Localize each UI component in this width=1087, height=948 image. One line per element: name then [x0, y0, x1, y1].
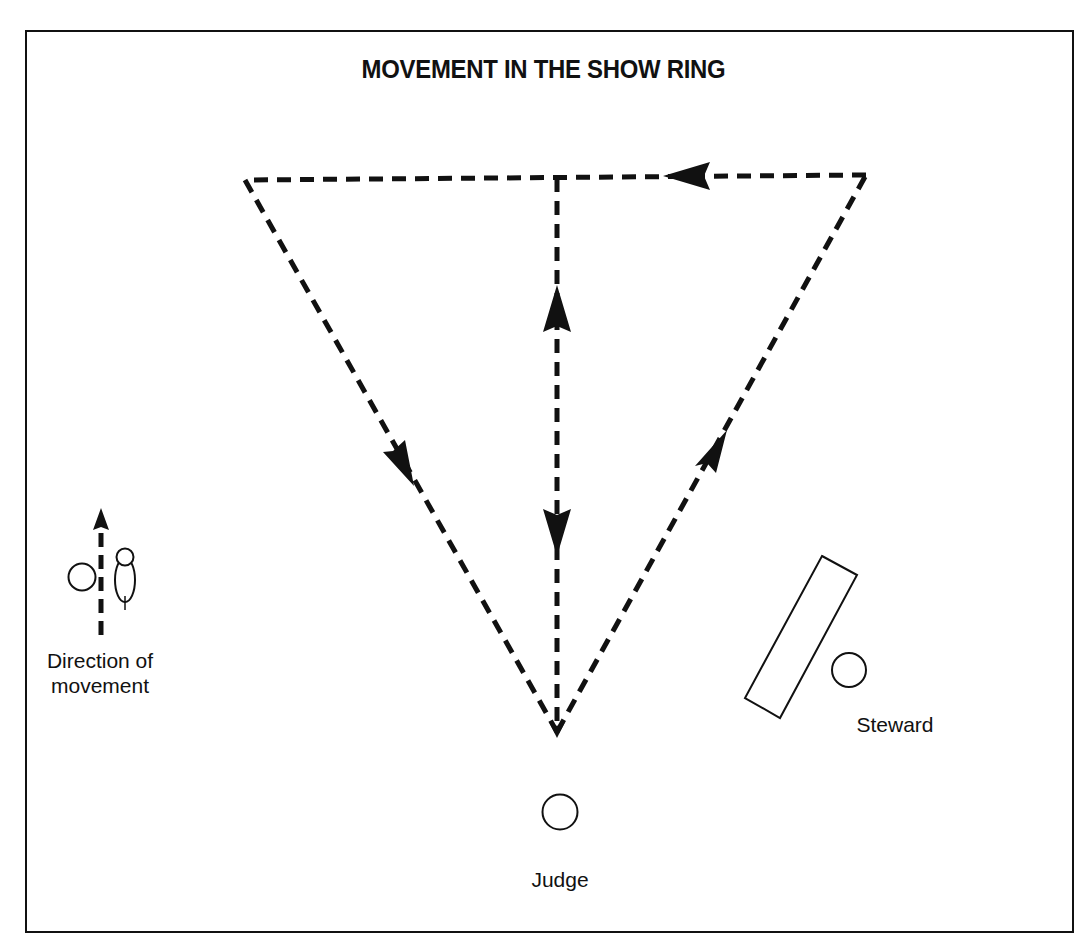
steward-label: Steward	[840, 712, 950, 737]
legend-label: Direction of movement	[30, 648, 170, 698]
show-ring-diagram	[0, 0, 1087, 948]
dog-icon	[69, 564, 96, 591]
arrow-up-icon	[543, 285, 571, 332]
steward-table-icon	[745, 556, 857, 718]
arrow-down-icon	[543, 509, 571, 556]
legend-direction-of-movement	[69, 508, 136, 635]
arrow-up-right-icon	[695, 430, 727, 473]
legend-arrow-up-icon	[93, 508, 109, 530]
legend-label-line2: movement	[30, 673, 170, 698]
handler-head-icon	[117, 549, 134, 566]
arrow-down-right-icon	[383, 440, 414, 486]
steward-icon	[832, 653, 866, 687]
steward-area	[745, 556, 866, 718]
arrow-left-icon	[663, 162, 710, 190]
judge-label: Judge	[510, 867, 610, 892]
legend-label-line1: Direction of	[30, 648, 170, 673]
judge-icon	[543, 795, 578, 830]
apex-arrow-icon	[549, 722, 565, 738]
